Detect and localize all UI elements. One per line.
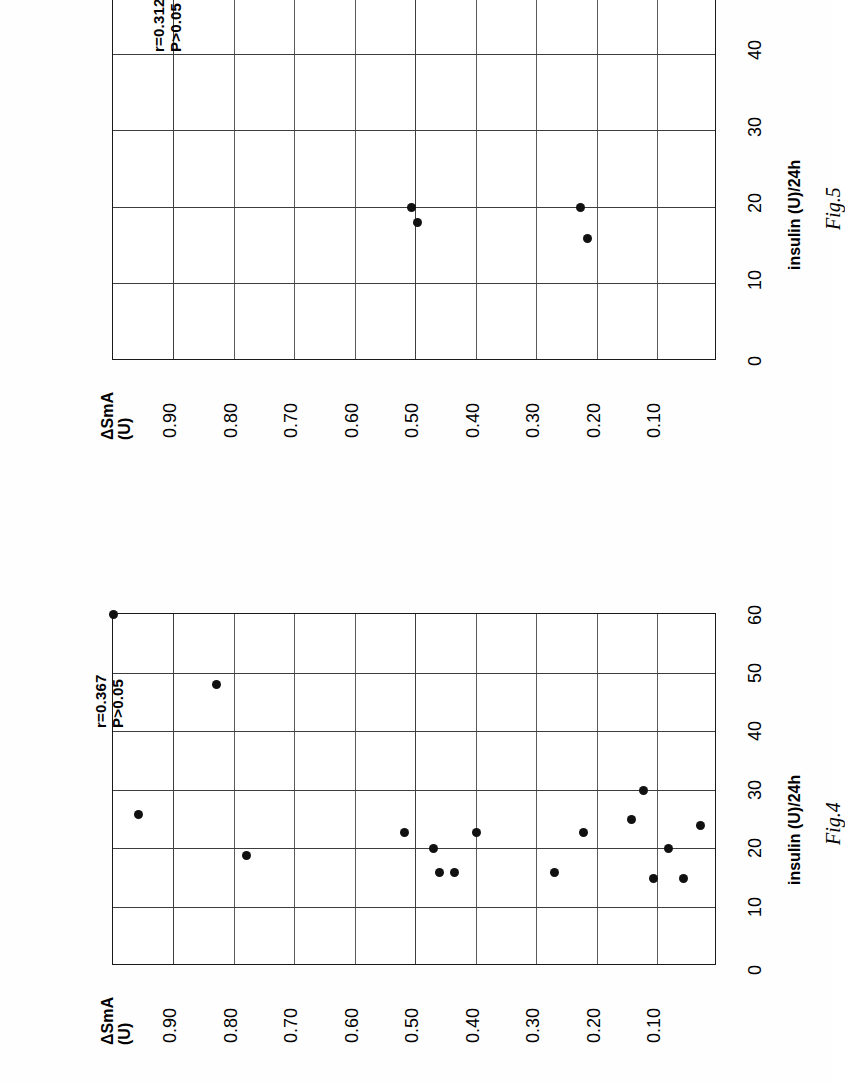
data-point [627, 815, 636, 824]
figure-4-xtick: 50 [745, 663, 766, 683]
figure-5-gridlines [113, 0, 715, 359]
figure-4-ytick: 0.90 [160, 1008, 181, 1043]
figure-4-stats: r=0.367 P>0.05 [92, 674, 126, 728]
figure-5-ytick: 0.20 [584, 403, 605, 438]
figure-5-ytick: 0.30 [523, 403, 544, 438]
data-point [579, 828, 588, 837]
figure-4-ytick: 0.70 [281, 1008, 302, 1043]
data-point [472, 828, 481, 837]
data-point [435, 868, 444, 877]
figure-5-ytick: 0.60 [342, 403, 363, 438]
figure-5-ytick: 0.90 [160, 403, 181, 438]
figure-5-caption: Fig.5 [822, 187, 845, 230]
data-point [242, 851, 251, 860]
figure-4-ytick: 0.50 [402, 1008, 423, 1043]
figure-5-xtick: 40 [745, 40, 766, 60]
figure-4-yaxis-title: ΔSmA (U) [100, 997, 134, 1045]
data-point [679, 874, 688, 883]
figure-4-r-value: r=0.367 [92, 674, 109, 728]
data-point [413, 218, 422, 227]
figure-4-xtick: 20 [745, 838, 766, 858]
figure-4-ytick: 0.40 [463, 1008, 484, 1043]
data-point [664, 844, 673, 853]
figure-4-xaxis-title: insulin (U)/24h [786, 775, 804, 885]
figure-5-ytick: 0.50 [402, 403, 423, 438]
data-point [550, 868, 559, 877]
figure-5-xtick: 0 [745, 356, 766, 366]
data-point [134, 810, 143, 819]
figure-4-ytick: 0.10 [644, 1008, 665, 1043]
figure-5-ytick: 0.10 [644, 403, 665, 438]
figure-5-block: r=0.312 P>0.05 ΔSmA (U) 0.90 0.80 0.70 0… [0, 0, 832, 440]
figure-4-block: r=0.367 P>0.05 ΔSmA (U) 0.90 0.80 0.70 0… [0, 600, 832, 1082]
data-point [212, 680, 221, 689]
figure-5-r-value: r=0.312 [150, 0, 167, 52]
figure-5-ytick: 0.80 [221, 403, 242, 438]
figure-4-ytick: 0.60 [342, 1008, 363, 1043]
figure-4-xtick: 10 [745, 897, 766, 917]
figure-5-ytick: 0.40 [463, 403, 484, 438]
figure-4-xtick: 60 [745, 605, 766, 625]
data-point [109, 610, 118, 619]
figure-5-p-value: P>0.05 [167, 0, 184, 52]
figure-4-xtick: 30 [745, 780, 766, 800]
figure-4-xtick: 0 [745, 965, 766, 975]
figure-4-xtick: 40 [745, 721, 766, 741]
data-point [639, 786, 648, 795]
figure-4-plot-area [112, 613, 716, 965]
data-point [400, 828, 409, 837]
figure-4-gridlines [113, 614, 715, 964]
data-point [583, 234, 592, 243]
figure-4-ytick: 0.20 [584, 1008, 605, 1043]
figure-5-yaxis-title: ΔSmA (U) [100, 392, 134, 440]
data-point [450, 868, 459, 877]
data-point [696, 821, 705, 830]
figure-5-xaxis-title: insulin (U)/24h [786, 160, 804, 270]
figure-5-xtick: 20 [745, 193, 766, 213]
figure-4-ytick: 0.80 [221, 1008, 242, 1043]
data-point [407, 203, 416, 212]
figure-5-plot-area [112, 0, 716, 360]
figure-4-caption: Fig.4 [822, 802, 845, 845]
figure-5-stats: r=0.312 P>0.05 [150, 0, 184, 52]
figure-5-ytick: 0.70 [281, 403, 302, 438]
data-point [576, 203, 585, 212]
figure-4-p-value: P>0.05 [109, 674, 126, 728]
figure-5-xtick: 30 [745, 117, 766, 137]
data-point [429, 844, 438, 853]
figure-4-ytick: 0.30 [523, 1008, 544, 1043]
figure-5-xtick: 10 [745, 270, 766, 290]
data-point [649, 874, 658, 883]
